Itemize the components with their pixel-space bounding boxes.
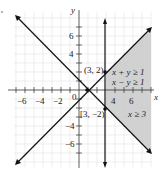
point-label-3-neg2: [3, −2)	[80, 109, 105, 119]
inequality-2: x − y ≥ 1	[111, 77, 145, 87]
y-tick-label: −6	[65, 139, 75, 149]
inequality-graph: y x 0 −6 −4 −2 4 6 6 4 −4 −6 (3, 2) [3, …	[0, 0, 163, 175]
y-tick-label: 6	[69, 31, 74, 41]
x-tick-label: −2	[53, 96, 63, 106]
inequality-1: x + y ≥ 1	[111, 67, 145, 77]
arrow-up-icon	[103, 18, 107, 24]
inequality-3: x ≥ 3	[127, 109, 146, 119]
x-axis-label: x	[153, 92, 158, 102]
y-tick-label: 4	[69, 49, 74, 59]
y-tick-label: −4	[65, 121, 75, 131]
corner-mark	[1, 11, 3, 13]
arrow-down-icon	[103, 162, 107, 168]
point-3-2	[103, 70, 107, 74]
x-tick-label: 6	[129, 96, 134, 106]
origin-label: 0	[72, 92, 77, 102]
x-tick-label: −6	[17, 96, 27, 106]
point-label-3-2: (3, 2)	[84, 65, 104, 75]
x-tick-label: 4	[111, 96, 116, 106]
point-intersection	[85, 88, 89, 92]
x-tick-label: −4	[35, 96, 45, 106]
y-axis-label: y	[70, 5, 75, 15]
